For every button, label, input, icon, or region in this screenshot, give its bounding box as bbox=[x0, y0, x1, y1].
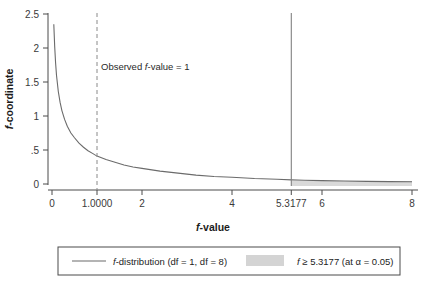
x-axis-title: f-value bbox=[196, 221, 230, 233]
y-axis-title: f-coordinate bbox=[3, 69, 15, 130]
x-tick-label: 1.0000 bbox=[82, 198, 113, 209]
observed-value-annotation: Observed f-value = 1 bbox=[101, 61, 189, 72]
y-tick-label: 0 bbox=[33, 179, 39, 190]
y-tick-label: 2 bbox=[33, 43, 39, 54]
x-axis-ticks: 01.0000245.317768 bbox=[49, 190, 415, 209]
y-tick-label: 1.5 bbox=[25, 77, 39, 88]
legend-label-rejection: f ≥ 5.3177 (at α = 0.05) bbox=[297, 256, 394, 267]
x-tick-label: 8 bbox=[409, 198, 415, 209]
legend-box-swatch bbox=[246, 255, 284, 266]
x-tick-label: 5.3177 bbox=[276, 198, 307, 209]
f-distribution-curve bbox=[54, 24, 412, 182]
chart-figure: 0.511.522.5 01.0000245.317768 Observed f… bbox=[0, 0, 426, 282]
y-tick-label: 2.5 bbox=[25, 9, 39, 20]
y-axis-ticks: 0.511.522.5 bbox=[25, 9, 48, 190]
x-tick-label: 4 bbox=[229, 198, 235, 209]
x-tick-label: 0 bbox=[49, 198, 55, 209]
x-tick-label: 6 bbox=[319, 198, 325, 209]
y-tick-label: .5 bbox=[31, 145, 40, 156]
f-distribution-chart: 0.511.522.5 01.0000245.317768 Observed f… bbox=[0, 0, 426, 282]
x-tick-label: 2 bbox=[139, 198, 145, 209]
legend-label-distribution: f-distribution (df = 1, df = 8) bbox=[113, 256, 227, 267]
y-tick-label: 1 bbox=[33, 111, 39, 122]
